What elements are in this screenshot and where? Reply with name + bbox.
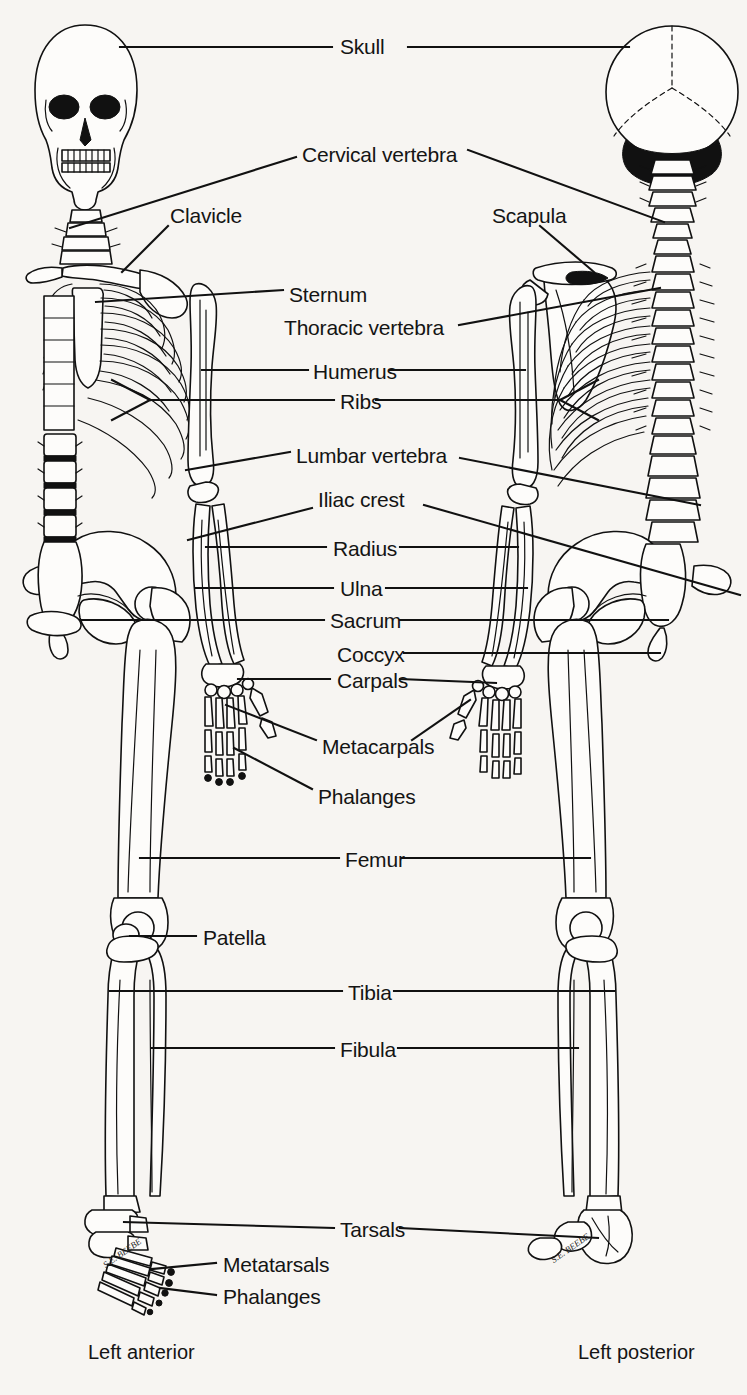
label-lumbar-vertebra: Lumbar vertebra	[296, 445, 447, 466]
label-metacarpals: Metacarpals	[322, 736, 434, 757]
label-thoracic-vertebra: Thoracic vertebra	[284, 317, 444, 338]
label-phalanges-hand: Phalanges	[318, 786, 415, 807]
foot-posterior	[528, 1196, 632, 1264]
label-metatarsals: Metatarsals	[223, 1254, 329, 1275]
sternum	[72, 288, 103, 388]
skull-anterior	[35, 25, 137, 210]
femur-anterior	[111, 619, 176, 953]
label-ulna: Ulna	[340, 578, 382, 599]
label-clavicle: Clavicle	[170, 205, 242, 226]
leader-clavicle	[122, 226, 168, 272]
femur-posterior	[548, 619, 613, 953]
lower-leg-posterior	[558, 936, 619, 1198]
label-skull: Skull	[340, 36, 385, 57]
label-coccyx: Coccyx	[337, 644, 405, 665]
label-carpals: Carpals	[337, 670, 408, 691]
skeleton-diagram	[0, 0, 747, 1395]
leader-tarsals-left	[124, 1222, 334, 1228]
label-femur: Femur	[345, 849, 405, 870]
label-ribs: Ribs	[340, 391, 381, 412]
label-patella: Patella	[203, 927, 266, 948]
hand-anterior	[202, 664, 276, 785]
cervical-spine-anterior	[52, 210, 120, 264]
label-fibula: Fibula	[340, 1039, 396, 1060]
label-sacrum: Sacrum	[330, 610, 401, 631]
label-humerus: Humerus	[313, 361, 397, 382]
lower-leg-anterior	[105, 936, 166, 1198]
label-sternum: Sternum	[289, 284, 367, 305]
label-radius: Radius	[333, 538, 397, 559]
leader-ribs-left-fork-b	[112, 400, 150, 420]
leader-ribs-left-fork-a	[112, 380, 150, 400]
caption-left-posterior: Left posterior	[578, 1341, 695, 1364]
label-scapula: Scapula	[492, 205, 567, 226]
caption-left-anterior: Left anterior	[88, 1341, 195, 1364]
clavicle-anterior	[26, 265, 156, 289]
label-cervical-vertebra: Cervical vertebra	[302, 144, 457, 165]
label-tarsals: Tarsals	[340, 1219, 405, 1240]
label-iliac-crest: Iliac crest	[318, 489, 405, 510]
label-tibia: Tibia	[348, 982, 392, 1003]
foot-anterior	[85, 1196, 174, 1315]
label-phalanges-foot: Phalanges	[223, 1286, 320, 1307]
